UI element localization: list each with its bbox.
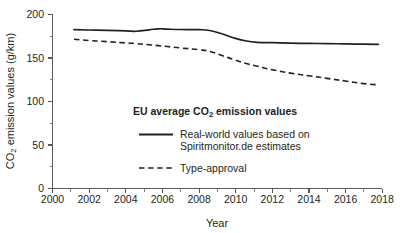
legend-title-post: emission values [213,105,297,117]
legend-label-real-world-line1: Real-world values based on [180,128,310,140]
y-tick-label-100: 100 [26,95,44,107]
x-tick-label-2014: 2014 [297,193,321,205]
chart-container: 200 150 100 50 0 [0,0,400,233]
y-axis-major-ticks [48,15,53,189]
x-tick-label-2002: 2002 [78,193,102,205]
legend-title-pre: EU average CO [133,105,209,117]
legend-item-real-world: Real-world values based on Spiritmonitor… [139,128,310,152]
co2-emissions-line-chart: 200 150 100 50 0 [0,0,400,233]
y-axis-title-pre: CO [4,152,16,169]
legend-label-real-world-line2: Spiritmonitor.de estimates [180,140,301,152]
legend-label-type-approval: Type-approval [180,162,247,174]
y-tick-label-150: 150 [26,52,44,64]
x-tick-label-2008: 2008 [187,193,211,205]
legend-title: EU average CO2 emission values [133,105,297,119]
x-tick-label-2012: 2012 [261,193,285,205]
x-tick-label-2000: 2000 [41,193,65,205]
x-tick-label-2018: 2018 [371,193,395,205]
chart-legend: EU average CO2 emission values Real-worl… [133,105,310,174]
x-tick-label-2004: 2004 [114,193,138,205]
y-axis-title: CO2 emission values (g/km) [4,33,18,169]
x-tick-label-2006: 2006 [151,193,175,205]
legend-item-type-approval: Type-approval [139,162,247,174]
y-axis-title-post: emission values (g/km) [4,33,16,149]
y-tick-label-50: 50 [32,139,44,151]
x-tick-label-2010: 2010 [224,193,248,205]
x-axis-title: Year [206,217,229,229]
series-line-type-approval [74,39,378,85]
x-tick-label-2016: 2016 [334,193,358,205]
y-tick-label-200: 200 [26,8,44,20]
